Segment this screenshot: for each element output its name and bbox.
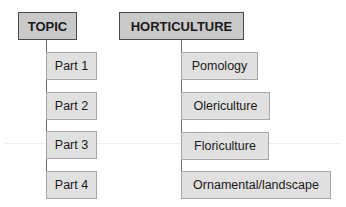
- horticulture-item-ornamental-landscape: Ornamental/landscape: [181, 171, 331, 199]
- horticulture-item-olericulture: Olericulture: [181, 92, 270, 120]
- topic-item-part-1: Part 1: [46, 52, 97, 80]
- topic-item-part-2: Part 2: [46, 92, 97, 120]
- horticulture-item-floriculture: Floriculture: [181, 132, 269, 160]
- topic-item-part-4: Part 4: [46, 171, 97, 199]
- topic-item-part-3: Part 3: [46, 131, 97, 159]
- topic-header-box: TOPIC: [18, 12, 77, 40]
- horticulture-header-box: HORTICULTURE: [119, 12, 244, 40]
- horticulture-item-pomology: Pomology: [181, 52, 258, 80]
